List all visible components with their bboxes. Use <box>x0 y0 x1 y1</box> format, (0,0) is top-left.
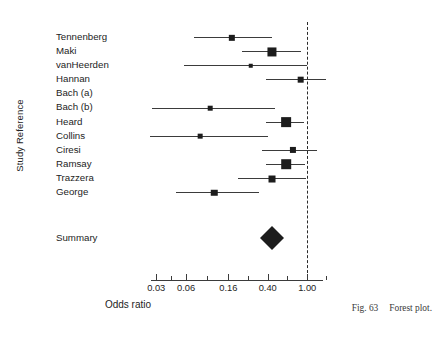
effect-estimate-marker <box>290 147 296 153</box>
x-axis-tick-minor <box>326 276 327 280</box>
x-axis-tick-major <box>307 274 308 280</box>
confidence-interval-line <box>152 108 275 109</box>
forest-row <box>0 172 436 186</box>
x-axis-tick-major <box>186 274 187 280</box>
forest-row <box>0 186 436 200</box>
forest-row <box>0 31 436 45</box>
plot-area <box>0 0 436 337</box>
effect-estimate-marker <box>229 34 235 40</box>
forest-row <box>0 45 436 59</box>
x-axis-tick-minor <box>171 276 172 280</box>
x-axis-tick-label: 0.03 <box>147 283 165 293</box>
x-axis-tick-minor <box>207 276 208 280</box>
x-axis-tick-label: 0.16 <box>219 283 237 293</box>
x-axis-tick-label: 0.06 <box>177 283 195 293</box>
x-axis-tick-major <box>228 274 229 280</box>
figure-caption-text: Forest plot. <box>389 303 432 313</box>
effect-estimate-marker <box>208 106 213 111</box>
effect-estimate-marker <box>268 175 275 182</box>
forest-row <box>0 115 436 129</box>
forest-row <box>0 157 436 171</box>
confidence-interval-line <box>150 136 268 137</box>
confidence-interval-line <box>184 65 307 66</box>
effect-estimate-marker <box>211 189 217 195</box>
summary-diamond <box>260 226 284 250</box>
effect-estimate-marker <box>198 134 203 139</box>
figure-caption: Fig. 63Forest plot. <box>352 303 432 313</box>
confidence-interval-line <box>266 79 327 80</box>
forest-row <box>0 143 436 157</box>
effect-estimate-marker <box>267 47 276 56</box>
forest-row <box>0 59 436 73</box>
forest-row <box>0 101 436 115</box>
x-axis-tick-label: 0.40 <box>259 283 277 293</box>
effect-estimate-marker <box>281 160 291 170</box>
x-axis-title-text: Odds ratio <box>105 299 151 310</box>
forest-row <box>0 129 436 143</box>
effect-estimate-marker <box>297 77 304 84</box>
figure-number: Fig. 63 <box>352 303 379 313</box>
forest-row <box>0 73 436 87</box>
x-axis-tick-label: 1.00 <box>298 283 316 293</box>
x-axis-tick-major <box>156 274 157 280</box>
x-axis-line <box>151 280 323 281</box>
effect-estimate-marker <box>249 63 254 68</box>
effect-estimate-marker <box>281 117 291 127</box>
x-axis-tick-minor <box>248 276 249 280</box>
forest-plot-figure: Study Reference TennenbergMakivanHeerden… <box>0 0 436 337</box>
confidence-interval-line <box>176 192 260 193</box>
forest-row <box>0 87 436 101</box>
x-axis-tick-major <box>268 274 269 280</box>
x-axis-tick-minor <box>287 276 288 280</box>
